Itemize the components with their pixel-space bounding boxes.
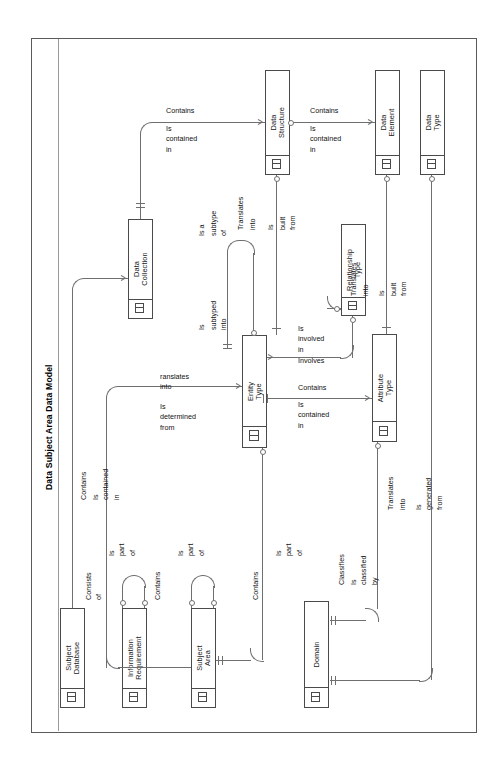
label-involves: Involves bbox=[298, 356, 324, 366]
page-title: Data Subject Area Data Model bbox=[44, 364, 54, 490]
entity-data-collection[interactable]: Data Collection bbox=[128, 219, 153, 319]
key-separator bbox=[123, 688, 146, 689]
label-is-a-subtype: Is a bbox=[197, 224, 207, 236]
label-is-subtyped: Is bbox=[197, 324, 207, 330]
label-subtype-of: subtype of bbox=[209, 211, 230, 236]
label-translates-attributetype: Translates bbox=[386, 477, 396, 510]
label-is-determined-from: Is determined from bbox=[160, 402, 196, 433]
key-mark bbox=[311, 696, 320, 702]
crowfoot-icon bbox=[365, 395, 370, 401]
label-classifies: Classifies bbox=[337, 554, 347, 585]
key-separator bbox=[243, 426, 266, 427]
cardinality-tick bbox=[218, 656, 219, 665]
key-separator bbox=[421, 155, 444, 156]
cardinality-dot bbox=[334, 306, 340, 312]
label-is-generated-from: Is generated from bbox=[414, 478, 445, 510]
label-contains-subjectarea: Contains bbox=[153, 572, 163, 600]
key-mark bbox=[135, 307, 144, 313]
key-mark bbox=[129, 696, 138, 702]
key-separator bbox=[342, 297, 365, 298]
label-contains-datacollection: Contains bbox=[166, 106, 194, 116]
key-mark bbox=[67, 696, 76, 702]
label-builtfrom-relationshiptype: built from bbox=[389, 282, 410, 296]
key-mark bbox=[272, 163, 281, 169]
label-is-part-of-subjectarea: Is part of bbox=[176, 544, 207, 556]
label-is-builtfrom-datastructure: Is bbox=[266, 224, 276, 230]
cardinality-tick bbox=[335, 616, 336, 625]
label-contains-datastructure: Contains bbox=[310, 106, 338, 116]
cardinality-dot bbox=[274, 176, 280, 182]
entity-entity-type[interactable]: Entity Type bbox=[242, 335, 267, 448]
connector-subjectarea-bottom bbox=[118, 667, 191, 668]
cardinality-dot bbox=[384, 176, 390, 182]
entity-subject-database[interactable]: Subject Database bbox=[60, 608, 85, 708]
cardinality-tick bbox=[272, 328, 281, 329]
label-translates-relationshiptype: Translates bbox=[349, 263, 359, 296]
label-is-contained-in-entitytype: Is contained in bbox=[298, 400, 329, 431]
label-is-contained-in-subjectdatabase: Is contained in bbox=[91, 469, 122, 500]
label-is-part-of-inforeq: Is part of bbox=[107, 544, 138, 556]
label-is-contained-in-datacollection: Is contained in bbox=[166, 124, 197, 155]
connector-subjectdatabase-up bbox=[72, 290, 73, 608]
key-separator bbox=[192, 688, 215, 689]
key-separator bbox=[129, 299, 152, 300]
cardinality-tick bbox=[263, 394, 264, 403]
label-subtyped-into: subtyped into bbox=[209, 301, 230, 330]
label-into-attributetype: into bbox=[398, 498, 408, 510]
cardinality-dot bbox=[189, 600, 195, 606]
connector-datastructure-down bbox=[276, 175, 277, 335]
connector-datatype-bottom bbox=[330, 680, 420, 681]
cardinality-dot bbox=[211, 600, 217, 606]
entity-subject-area[interactable]: Subject Area bbox=[191, 608, 216, 708]
label-contains-entitytype: Contains bbox=[298, 383, 326, 393]
crowfoot-icon bbox=[236, 383, 241, 389]
label-is-part-of-entitytype: Is part of bbox=[274, 544, 305, 556]
label-is-involved-in: Is involved in bbox=[298, 324, 324, 355]
cardinality-dot bbox=[251, 330, 257, 336]
crowfoot-icon bbox=[121, 275, 126, 281]
entity-data-type[interactable]: Data Type bbox=[420, 70, 445, 175]
label-into-entitytype: into bbox=[248, 218, 258, 230]
title-divider bbox=[58, 39, 59, 731]
label-consists-of: Consists of bbox=[84, 572, 105, 600]
connector-datacollection-datastructure bbox=[152, 122, 265, 123]
cardinality-dot bbox=[350, 317, 356, 323]
cardinality-tick bbox=[136, 203, 145, 204]
diagram-canvas: Data Subject Area Data Model Data Struct… bbox=[0, 0, 500, 784]
connector-subtype-right bbox=[253, 253, 254, 335]
key-mark bbox=[198, 696, 207, 702]
label-builtfrom-datastructure: built from bbox=[278, 216, 299, 230]
label-ranslates-into: ranslates into bbox=[160, 372, 189, 393]
connector-dataelement-down bbox=[386, 175, 387, 334]
entity-domain[interactable]: Domain bbox=[304, 601, 329, 708]
connector-entitytype-down bbox=[262, 448, 263, 660]
crowfoot-icon bbox=[258, 119, 263, 125]
key-mark bbox=[249, 435, 259, 442]
cardinality-dot bbox=[260, 449, 266, 455]
label-is-contained-in-datastructure: Is contained in bbox=[310, 124, 341, 155]
connector-datastructure-dataelement bbox=[290, 122, 375, 123]
entity-attribute-type[interactable]: Attribute Type bbox=[372, 334, 397, 442]
label-contains-entitytype-part: Contains bbox=[251, 572, 261, 600]
connector-subjectarea-vertical bbox=[106, 398, 107, 668]
key-mark bbox=[348, 305, 357, 311]
label-into-relationshiptype: into bbox=[361, 284, 371, 296]
connector-entitytype-attributetype bbox=[267, 398, 372, 399]
label-is-builtfrom-relationshiptype: Is bbox=[377, 290, 387, 296]
entity-information-requirement[interactable]: Information Requirement bbox=[122, 608, 147, 708]
entity-data-type-label: Data Type bbox=[381, 111, 484, 134]
cardinality-dot bbox=[142, 600, 148, 606]
entity-data-structure[interactable]: Data Structure bbox=[265, 70, 290, 175]
cardinality-tick bbox=[382, 327, 391, 328]
label-contains-subjectdatabase: Contains bbox=[79, 472, 89, 500]
key-separator bbox=[61, 688, 84, 689]
cardinality-dot bbox=[429, 176, 435, 182]
cardinality-tick bbox=[223, 348, 232, 349]
cardinality-tick bbox=[136, 207, 145, 208]
cardinality-tick bbox=[222, 656, 223, 665]
crowfoot-icon bbox=[368, 119, 373, 125]
key-separator bbox=[376, 155, 399, 156]
key-mark bbox=[382, 163, 391, 169]
cardinality-tick bbox=[331, 616, 332, 625]
crowfoot-icon bbox=[268, 354, 273, 360]
